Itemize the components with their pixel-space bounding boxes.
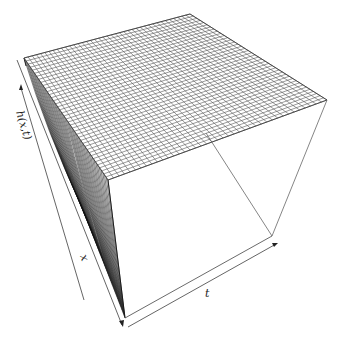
t-axis-label: t [205,287,210,300]
x-axis-label: x [77,253,92,264]
surface-plot: h(x,t) x t [0,0,346,340]
t-axis-arrow [128,243,278,327]
z-axis-label: h(x,t) [13,109,34,141]
